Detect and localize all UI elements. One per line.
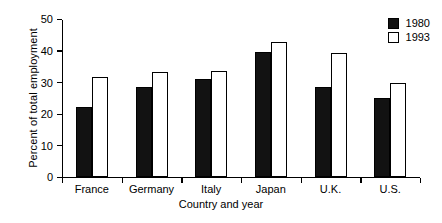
y-tick-10: 10: [57, 145, 62, 146]
y-tick-20: 20: [57, 114, 62, 115]
x-tick-2: [181, 178, 182, 183]
bar-group: [254, 19, 287, 177]
legend-item-1993: 1993: [388, 32, 430, 43]
legend-swatch-1993: [388, 32, 399, 43]
x-axis-label-uk: U.K.: [320, 183, 341, 195]
x-tick-3: [241, 178, 242, 183]
y-tick-50: 50: [57, 19, 62, 20]
legend-swatch-1980: [388, 18, 399, 29]
bar-france-1993: [92, 77, 108, 177]
y-tick-label: 50: [41, 14, 53, 25]
bar-group: [314, 19, 347, 177]
x-tick-5: [360, 178, 361, 183]
x-axis-label-germany: Germany: [129, 183, 174, 195]
bar-italy-1993: [211, 71, 227, 177]
x-axis-label-italy: Italy: [201, 183, 221, 195]
bar-group: [135, 19, 168, 177]
bar-italy-1980: [195, 79, 211, 177]
bar-group: [195, 19, 228, 177]
x-axis-title: Country and year: [0, 198, 442, 210]
bar-japan-1993: [271, 42, 287, 176]
bar-germany-1980: [136, 87, 152, 177]
y-axis-line: [62, 20, 63, 178]
bar-us-1980: [374, 98, 390, 177]
y-tick-label: 30: [41, 77, 53, 88]
y-tick-label: 20: [41, 109, 53, 120]
y-tick-label: 40: [41, 46, 53, 57]
bar-japan-1980: [255, 52, 271, 177]
bar-us-1993: [390, 83, 406, 176]
x-tick-1: [122, 178, 123, 183]
bar-france-1980: [76, 107, 92, 177]
bar-uk-1993: [331, 53, 347, 176]
x-tick-0: [62, 178, 63, 183]
legend-label-1993: 1993: [406, 32, 430, 43]
bar-chart-figure: Percent of total employment 01020304050 …: [0, 0, 442, 223]
x-tick-end: [420, 178, 421, 183]
x-tick-4: [301, 178, 302, 183]
y-tick-label: 10: [41, 140, 53, 151]
x-axis-label-us: U.S.: [379, 183, 400, 195]
bar-group: [75, 19, 108, 177]
bar-germany-1993: [152, 72, 168, 176]
legend-label-1980: 1980: [406, 18, 430, 29]
y-tick-40: 40: [57, 50, 62, 51]
bar-uk-1980: [315, 87, 331, 177]
x-axis-label-japan: Japan: [256, 183, 286, 195]
y-axis-title: Percent of total employment: [27, 8, 39, 188]
x-axis-label-france: France: [75, 183, 109, 195]
y-tick-30: 30: [57, 82, 62, 83]
y-tick-label: 0: [47, 172, 53, 183]
chart-legend: 19801993: [388, 18, 430, 43]
plot-area: 01020304050 FranceGermanyItalyJapanU.K.U…: [62, 20, 420, 178]
legend-item-1980: 1980: [388, 18, 430, 29]
